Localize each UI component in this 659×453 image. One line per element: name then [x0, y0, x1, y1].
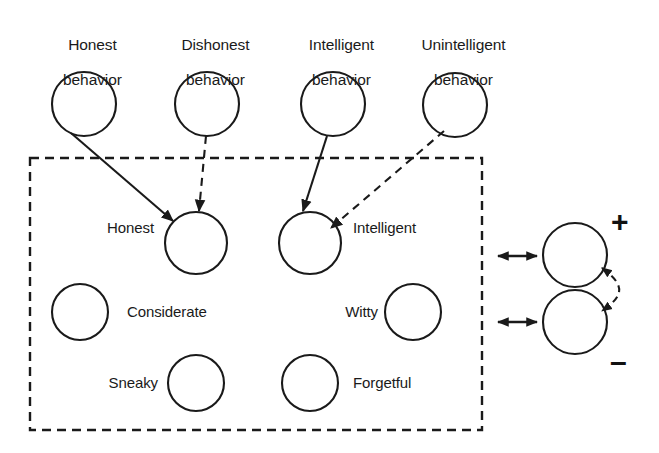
behavior-label-line2: behavior	[434, 71, 493, 88]
edge-dishonest-behavior-to-honest	[199, 136, 206, 211]
trait-node-intelligent	[279, 212, 341, 274]
trait-node-witty	[385, 284, 441, 340]
trait-label-forgetful: Forgetful	[353, 374, 473, 391]
trait-node-considerate	[52, 284, 108, 340]
trait-label-considerate: Considerate	[127, 303, 267, 320]
trait-label-honest: Honest	[20, 219, 154, 236]
behavior-label-unintelligent-behavior: Unintelligent behavior	[375, 18, 535, 107]
valence-node-negative	[543, 290, 607, 354]
behavior-label-line2: behavior	[186, 71, 245, 88]
trait-label-sneaky: Sneaky	[30, 374, 158, 391]
diagram-canvas: Honest behavior Dishonest behavior Intel…	[0, 0, 659, 453]
behavior-label-line1: Dishonest	[181, 36, 249, 53]
behavior-label-line1: Honest	[68, 36, 117, 53]
negative-sign-label: –	[610, 347, 627, 377]
trait-label-intelligent: Intelligent	[353, 219, 483, 236]
valence-node-positive	[543, 223, 607, 287]
trait-node-forgetful	[282, 355, 338, 411]
trait-node-sneaky	[168, 355, 224, 411]
trait-node-honest	[165, 212, 227, 274]
edge-unintelligent-behavior-to-intelligent	[331, 131, 444, 228]
edge-honest-behavior-to-honest	[71, 133, 173, 221]
behavior-label-line1: Intelligent	[309, 36, 374, 53]
edge-positive-negative-link	[602, 268, 619, 311]
behavior-label-line2: behavior	[63, 71, 122, 88]
positive-sign-label: +	[611, 207, 629, 237]
trait-label-witty: Witty	[260, 303, 378, 320]
behavior-label-line2: behavior	[312, 71, 371, 88]
edge-intelligent-behavior-to-intelligent	[303, 136, 327, 211]
behavior-label-line1: Unintelligent	[421, 36, 505, 53]
